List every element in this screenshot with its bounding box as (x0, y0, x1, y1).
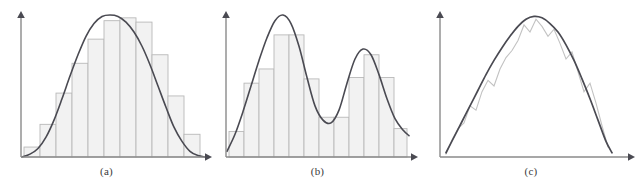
panel-c-chart (424, 0, 638, 165)
histogram-bar (56, 93, 72, 157)
panel-b-y-axis-arrow-icon (222, 11, 230, 18)
panel-a: (a) (0, 0, 213, 195)
histogram-bar (304, 79, 319, 157)
histogram-bar (72, 63, 88, 157)
histogram-bar (274, 35, 289, 157)
histogram-bar (120, 18, 136, 157)
panel-c-rough-series (446, 19, 608, 154)
histogram-bar (40, 124, 56, 157)
panel-b: (b) (211, 0, 424, 195)
panel-b-caption: (b) (211, 166, 424, 177)
panel-a-chart (0, 0, 213, 165)
panel-a-bars (24, 18, 200, 157)
histogram-bar (379, 77, 394, 157)
histogram-bar (349, 77, 364, 157)
histogram-bar (136, 22, 152, 157)
panel-c-density-curve (446, 16, 612, 152)
panel-c-caption: (c) (424, 166, 638, 177)
panel-a-y-axis-arrow-icon (17, 11, 25, 18)
histogram-bar (104, 21, 120, 157)
panel-c: (c) (424, 0, 638, 195)
histogram-bar (168, 96, 184, 157)
panel-b-x-axis-arrow-icon (411, 153, 418, 161)
histogram-bar (244, 83, 259, 157)
histogram-bar (259, 69, 274, 157)
histogram-bar (289, 35, 304, 157)
panel-b-chart (211, 0, 424, 165)
panel-c-y-axis-arrow-icon (436, 11, 444, 18)
histogram-bar (88, 39, 104, 157)
figure-container: (a) (b) (c) (0, 0, 638, 195)
histogram-bar (334, 117, 349, 157)
panel-b-bars (229, 35, 407, 157)
panel-a-caption: (a) (0, 166, 213, 177)
panel-c-x-axis-arrow-icon (628, 153, 635, 161)
